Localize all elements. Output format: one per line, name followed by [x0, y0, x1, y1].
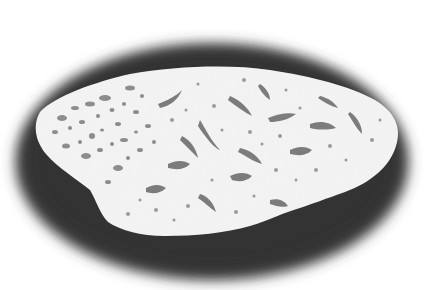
photo-scene	[0, 0, 446, 290]
specimen-photo	[0, 0, 446, 290]
